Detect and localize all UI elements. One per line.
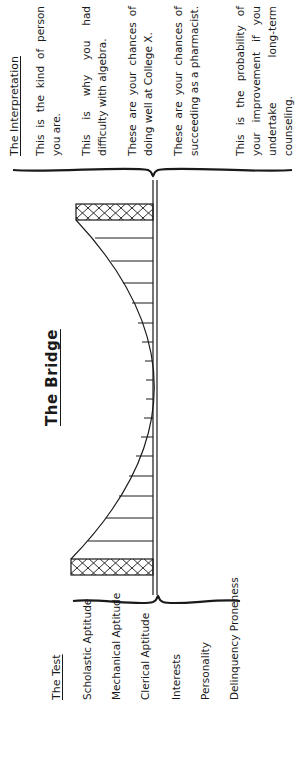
- bridge-diagram-page: The Test Scholastic Aptitude Mechanical …: [0, 0, 305, 778]
- interpretation-item-counseling: This is the probability of your improvem…: [232, 6, 296, 156]
- interpretation-item-algebra: This is why you had difficulty with alge…: [78, 6, 110, 156]
- right-tower: [76, 204, 153, 220]
- interpretation-item-pharmacist: These are your chances of succeeding as …: [170, 6, 202, 156]
- interpretation-heading: The Interpretation: [8, 56, 21, 156]
- interpretation-item-person: This is the kind of person you are.: [32, 6, 64, 156]
- left-tower: [71, 559, 153, 575]
- left-brace-icon: [73, 596, 240, 603]
- suspension-cable: [71, 220, 154, 559]
- interpretation-item-college: These are your chances of doing well at …: [124, 6, 156, 156]
- right-brace-icon: [13, 169, 292, 176]
